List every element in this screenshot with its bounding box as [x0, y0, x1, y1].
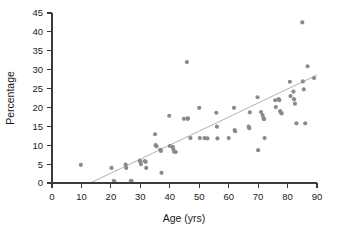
data-point	[255, 95, 259, 99]
y-tick-label: 20	[32, 102, 43, 113]
data-point	[144, 160, 148, 164]
y-tick-label: 35	[32, 45, 43, 56]
data-point	[185, 60, 189, 64]
data-point	[198, 136, 202, 140]
data-point	[188, 136, 192, 140]
data-point	[154, 144, 158, 148]
data-point	[303, 121, 307, 125]
data-point	[167, 114, 171, 118]
y-tick-label: 40	[32, 26, 43, 37]
y-tick-label: 25	[32, 83, 43, 94]
data-point	[214, 111, 218, 115]
x-tick-label: 70	[253, 191, 264, 202]
x-tick-label: 30	[135, 191, 146, 202]
data-point	[186, 116, 190, 120]
data-point	[215, 125, 219, 129]
data-point	[262, 117, 266, 121]
y-tick-label: 0	[38, 177, 43, 188]
x-tick-label: 0	[49, 191, 54, 202]
data-point	[247, 126, 251, 130]
data-points-layer	[79, 20, 316, 184]
data-point	[205, 136, 209, 140]
y-tick-label: 30	[32, 64, 43, 75]
data-point	[293, 102, 297, 106]
x-tick-label: 90	[312, 191, 323, 202]
data-point	[262, 136, 266, 140]
data-point	[174, 150, 178, 154]
data-point	[300, 20, 304, 24]
x-tick-label: 40	[164, 191, 175, 202]
data-point	[280, 111, 284, 115]
data-point	[144, 166, 148, 170]
data-point	[248, 110, 252, 114]
data-point	[79, 163, 83, 167]
x-axis-ticks: 0102030405060708090	[49, 183, 322, 202]
data-point	[109, 166, 113, 170]
data-point	[159, 171, 163, 175]
data-point	[277, 98, 281, 102]
trend-line	[90, 75, 317, 183]
data-point	[288, 80, 292, 84]
y-tick-label: 15	[32, 121, 43, 132]
data-point	[232, 106, 236, 110]
data-point	[159, 149, 163, 153]
data-point	[197, 106, 201, 110]
x-tick-label: 50	[194, 191, 205, 202]
y-axis-title: Percentage	[4, 71, 16, 125]
data-point	[312, 76, 316, 80]
data-point	[291, 89, 295, 93]
y-axis-ticks: 051015202530354045	[32, 7, 52, 188]
plot-canvas: 051015202530354045 0102030405060708090 A…	[0, 0, 339, 231]
scatter-plot-figure: 051015202530354045 0102030405060708090 A…	[0, 0, 339, 231]
y-tick-label: 45	[32, 7, 43, 18]
trend-line-layer	[90, 75, 317, 183]
x-axis-title: Age (yrs)	[163, 212, 206, 224]
data-point	[215, 136, 219, 140]
data-point	[305, 64, 309, 68]
data-point	[302, 87, 306, 91]
y-tick-label: 10	[32, 140, 43, 151]
data-point	[233, 129, 237, 133]
x-tick-label: 60	[223, 191, 234, 202]
data-point	[124, 166, 128, 170]
x-tick-label: 80	[282, 191, 293, 202]
data-point	[292, 97, 296, 101]
data-point	[227, 136, 231, 140]
x-tick-label: 10	[76, 191, 87, 202]
data-point	[301, 79, 305, 83]
data-point	[288, 94, 292, 98]
data-point	[274, 105, 278, 109]
data-point	[139, 162, 143, 166]
y-tick-label: 5	[38, 159, 43, 170]
x-tick-label: 20	[106, 191, 117, 202]
data-point	[153, 132, 157, 136]
data-point	[294, 121, 298, 125]
data-point	[256, 148, 260, 152]
